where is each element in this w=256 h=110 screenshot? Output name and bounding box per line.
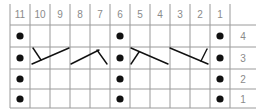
- column-label: 9: [57, 9, 63, 20]
- row-label: 1: [240, 94, 246, 105]
- column-label: 1: [217, 9, 223, 20]
- column-label: 4: [157, 9, 163, 20]
- column-label: 10: [34, 9, 46, 20]
- purl-dot-icon: [116, 54, 123, 61]
- row-labels: 4 3 2 1: [240, 31, 246, 105]
- column-label: 5: [137, 9, 143, 20]
- purl-dot-icon: [216, 75, 223, 82]
- purl-dot-icon: [116, 95, 123, 102]
- purl-dot-icon: [216, 54, 223, 61]
- column-label: 3: [177, 9, 183, 20]
- purl-dots: [16, 32, 223, 102]
- purl-dot-icon: [216, 95, 223, 102]
- column-label: 8: [77, 9, 83, 20]
- column-label: 2: [197, 9, 203, 20]
- purl-dot-icon: [16, 95, 23, 102]
- column-label: 6: [117, 9, 123, 20]
- purl-dot-icon: [16, 54, 23, 61]
- purl-dot-icon: [116, 32, 123, 39]
- purl-dot-icon: [216, 32, 223, 39]
- column-label: 11: [15, 9, 26, 20]
- cable-cross-icon: [71, 50, 107, 64]
- cable-cross-icon: [170, 48, 208, 64]
- purl-dot-icon: [16, 75, 23, 82]
- column-labels: 11 10 9 8 7 6 5 4 3 2 1: [15, 9, 223, 20]
- purl-dot-icon: [16, 32, 23, 39]
- column-label: 7: [97, 9, 103, 20]
- row-label: 2: [240, 74, 246, 85]
- row-label: 3: [240, 53, 246, 64]
- purl-dot-icon: [116, 75, 123, 82]
- row-label: 4: [240, 31, 246, 42]
- knitting-chart: 11 10 9 8 7 6 5 4 3 2 1 4 3 2 1: [0, 0, 256, 110]
